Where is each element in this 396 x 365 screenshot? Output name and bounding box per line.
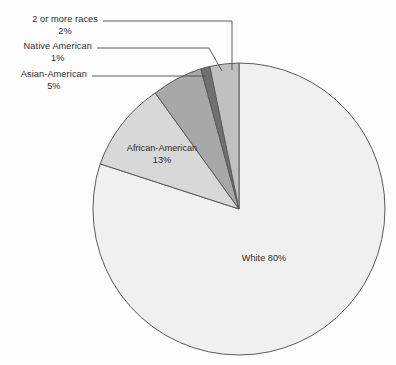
figure-caption-clipped xyxy=(0,354,396,365)
slice-label-name: White 80% xyxy=(242,253,286,263)
slice-label-name: 2 or more races xyxy=(32,14,98,24)
slice-label-name: African-American xyxy=(127,143,197,153)
leader-line-native-american xyxy=(97,48,222,71)
slice-label-two-or-more-races: 2 or more races 2% xyxy=(32,14,98,37)
pie-chart-figure: 2 or more races 2% Native American 1% As… xyxy=(0,0,396,365)
slice-label-percent: 1% xyxy=(24,53,92,65)
slice-label-percent: 5% xyxy=(21,81,87,93)
slice-label-asian-american: Asian-American 5% xyxy=(21,69,87,92)
slice-label-white: White 80% xyxy=(224,252,304,264)
slice-label-percent: 2% xyxy=(32,26,98,38)
leader-line-two-or-more-races xyxy=(103,21,232,70)
slice-label-percent: 13% xyxy=(114,154,210,166)
slice-label-name: Asian-American xyxy=(21,69,87,79)
slice-label-african-american: African-American 13% xyxy=(114,142,210,166)
slice-label-native-american: Native American 1% xyxy=(24,41,92,64)
slice-label-name: Native American xyxy=(24,41,92,51)
